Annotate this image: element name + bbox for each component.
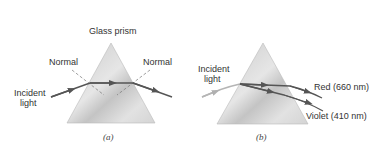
normal-right-label: Normal [143,57,172,67]
incident-line2-a: light [14,98,46,108]
prism-diagram [0,0,381,145]
incident-line1-a: Incident [14,88,46,98]
caption-a: (a) [103,132,114,142]
incident-light-label-b: Incident light [198,64,230,84]
normal-left-label: Normal [49,57,78,67]
glass-prism-b [217,43,308,124]
panel-a [51,43,172,123]
incident-line2-b: light [198,74,230,84]
incident-light-label-a: Incident light [14,88,46,108]
caption-b: (b) [256,132,267,142]
red-label: Red (660 nm) [314,82,369,92]
violet-label: Violet (410 nm) [306,111,367,121]
glass-prism-label: Glass prism [89,26,137,36]
incident-line1-b: Incident [198,64,230,74]
